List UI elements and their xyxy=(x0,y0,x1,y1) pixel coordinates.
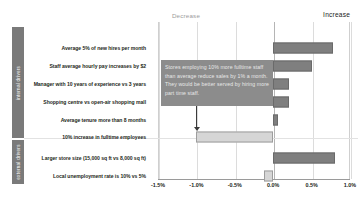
bar-negative xyxy=(264,170,273,181)
callout-annotation: Stores employing 10% more fulltime staff… xyxy=(161,60,273,106)
chart-row: 10% increase in fulltime employees xyxy=(0,127,358,146)
tick-label: -1.0% xyxy=(189,182,203,188)
chart-row: Larger store size (15,000 sq ft vs 8,000… xyxy=(0,148,358,167)
tornado-chart: Decrease Increase internal drivers exter… xyxy=(0,0,358,203)
tick-label: -0.5% xyxy=(228,182,242,188)
chart-row: Local unemployment rate is 10% vs 5% xyxy=(0,166,358,185)
decrease-header-label: Decrease xyxy=(172,12,200,19)
bar-positive xyxy=(273,152,334,163)
bar-positive xyxy=(273,78,289,89)
increase-header-label: Increase xyxy=(323,11,350,18)
bar-positive xyxy=(273,96,288,107)
tick-label: -1.5% xyxy=(151,182,165,188)
chart-row: Average 5% of new hires per month xyxy=(0,38,358,57)
bar-label: Average tenure more than 8 months xyxy=(61,117,146,123)
bar-label: Local unemployment rate is 10% vs 5% xyxy=(53,173,146,179)
tick-label: 0.0% xyxy=(267,182,279,188)
bar-label: Larger store size (15,000 sq ft vs 8,000… xyxy=(42,155,146,161)
tick-label: 1.0% xyxy=(344,182,356,188)
bar-label: Staff average hourly pay increases by $2 xyxy=(49,63,146,69)
bar-label: Shopping centre vs open-air shopping mal… xyxy=(43,99,146,105)
bar-label: Manager with 10 years of experience vs 3… xyxy=(34,81,146,87)
bar-positive xyxy=(273,114,278,125)
bar-positive xyxy=(273,42,333,53)
bar-label: Average 5% of new hires per month xyxy=(62,45,147,51)
callout-arrow-icon xyxy=(196,106,197,128)
tick-label: 0.5% xyxy=(305,182,317,188)
bar-label: 10% increase in fulltime employees xyxy=(62,134,146,140)
bar-negative xyxy=(196,131,273,142)
bar-positive xyxy=(273,60,311,71)
